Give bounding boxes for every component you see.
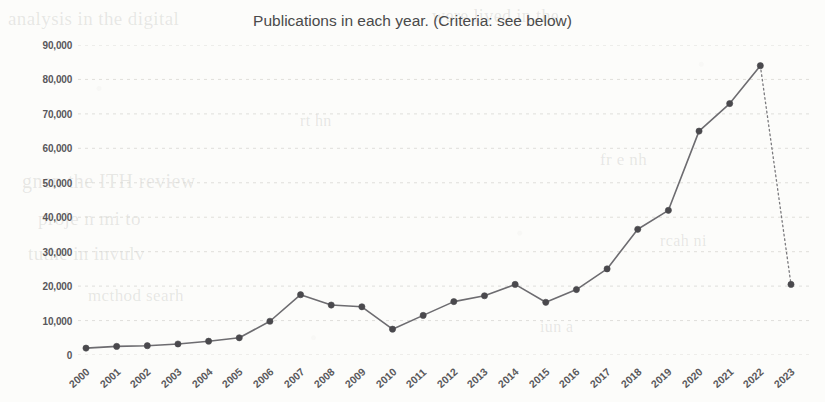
x-axis-tick-label-2017: 2017 <box>587 365 612 390</box>
y-axis-tick-label: 70,000 <box>43 108 72 119</box>
data-point-2023 <box>788 281 794 287</box>
data-point-2013 <box>481 293 487 299</box>
x-axis-tick-label-2006: 2006 <box>250 365 275 390</box>
data-point-2008 <box>328 302 334 308</box>
x-axis-tick-label-2008: 2008 <box>312 365 337 390</box>
data-point-2019 <box>665 207 671 213</box>
chart-title: Publications in each year. (Criteria: se… <box>0 12 825 30</box>
x-axis-tick-label-2022: 2022 <box>741 365 766 390</box>
x-axis-tick-label-2010: 2010 <box>373 365 398 390</box>
data-point-2017 <box>604 266 610 272</box>
x-axis-tick-label-2014: 2014 <box>496 365 521 390</box>
x-axis-tick-label-2007: 2007 <box>281 365 306 390</box>
y-axis-tick-label: 30,000 <box>43 246 72 257</box>
x-axis-tick-label-2019: 2019 <box>649 365 674 390</box>
data-point-2018 <box>635 226 641 232</box>
y-axis-tick-label: 10,000 <box>43 315 72 326</box>
y-axis-tick-label: 20,000 <box>43 281 72 292</box>
data-point-2011 <box>420 312 426 318</box>
x-axis-tick-label-2015: 2015 <box>526 365 551 390</box>
y-axis-tick-label: 40,000 <box>43 212 72 223</box>
line-chart-svg <box>78 45 813 355</box>
x-axis-tick-label-2023: 2023 <box>771 365 796 390</box>
x-axis-tick-label-2012: 2012 <box>434 365 459 390</box>
y-axis-tick-label: 80,000 <box>43 74 72 85</box>
data-point-2002 <box>144 343 150 349</box>
data-point-2009 <box>359 304 365 310</box>
x-axis-tick-label-2018: 2018 <box>618 365 643 390</box>
y-axis-tick-label: 90,000 <box>43 40 72 51</box>
x-axis-tick-label-2009: 2009 <box>342 365 367 390</box>
data-point-2016 <box>573 286 579 292</box>
data-point-2012 <box>451 299 457 305</box>
data-point-2020 <box>696 128 702 134</box>
y-axis-tick-label: 50,000 <box>43 177 72 188</box>
data-line <box>86 66 760 348</box>
data-point-2015 <box>543 299 549 305</box>
plot-area <box>78 45 813 355</box>
x-axis-tick-label-2021: 2021 <box>710 365 735 390</box>
x-axis-tick-label-2016: 2016 <box>557 365 582 390</box>
x-axis-tick-label-2002: 2002 <box>128 365 153 390</box>
data-point-2005 <box>236 335 242 341</box>
data-point-2000 <box>83 345 89 351</box>
y-axis-tick-label: 60,000 <box>43 143 72 154</box>
x-axis-tick-label-2005: 2005 <box>220 365 245 390</box>
data-point-2004 <box>206 338 212 344</box>
data-point-2022 <box>757 63 763 69</box>
data-point-2010 <box>389 326 395 332</box>
y-axis: 010,00020,00030,00040,00050,00060,00070,… <box>0 0 78 402</box>
x-axis-tick-label-2004: 2004 <box>189 365 214 390</box>
x-axis: 2000200120022003200420052006200720082009… <box>78 358 813 402</box>
x-axis-tick-label-2020: 2020 <box>679 365 704 390</box>
data-point-2006 <box>267 318 273 324</box>
data-point-2021 <box>727 100 733 106</box>
x-axis-tick-label-2001: 2001 <box>97 365 122 390</box>
chart-page: analysis in the digital were lived in th… <box>0 0 825 402</box>
y-axis-tick-label: 0 <box>67 350 72 361</box>
x-axis-tick-label-2013: 2013 <box>465 365 490 390</box>
data-point-2014 <box>512 281 518 287</box>
x-axis-tick-label-2003: 2003 <box>158 365 183 390</box>
data-point-2003 <box>175 341 181 347</box>
x-axis-tick-label-2011: 2011 <box>404 366 429 390</box>
data-point-2007 <box>297 292 303 298</box>
data-point-2001 <box>114 343 120 349</box>
